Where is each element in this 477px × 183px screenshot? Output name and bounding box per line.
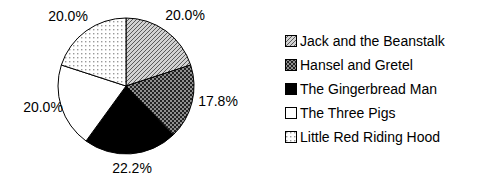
legend-label: The Three Pigs	[300, 105, 395, 121]
crosshatch-swatch-icon	[285, 59, 297, 71]
legend-item-jack-and-the-beanstalk: Jack and the Beanstalk	[285, 29, 445, 53]
slice-label-hansel-and-gretel: 17.8%	[198, 93, 238, 109]
pie-chart-figure: 20.0% 17.8% 22.2% 20.0% 20.0% Jack and t…	[0, 0, 477, 183]
legend-item-the-three-pigs: The Three Pigs	[285, 101, 445, 125]
dotted-swatch-icon	[285, 131, 297, 143]
legend-label: Hansel and Gretel	[300, 57, 413, 73]
pie-chart	[0, 0, 260, 183]
slice-label-the-gingerbread-man: 22.2%	[112, 160, 152, 176]
slice-label-jack-and-the-beanstalk: 20.0%	[165, 7, 205, 23]
solid-black-swatch-icon	[285, 83, 297, 95]
legend: Jack and the Beanstalk Hansel and Gretel…	[285, 29, 445, 149]
legend-item-the-gingerbread-man: The Gingerbread Man	[285, 77, 445, 101]
legend-item-little-red-riding-hood: Little Red Riding Hood	[285, 125, 445, 149]
slice-label-the-three-pigs: 20.0%	[23, 99, 63, 115]
pie-slices	[58, 18, 194, 154]
legend-label: The Gingerbread Man	[300, 81, 437, 97]
legend-item-hansel-and-gretel: Hansel and Gretel	[285, 53, 445, 77]
legend-label: Little Red Riding Hood	[300, 129, 440, 145]
legend-label: Jack and the Beanstalk	[300, 33, 445, 49]
white-swatch-icon	[285, 107, 297, 119]
slice-label-little-red-riding-hood: 20.0%	[48, 8, 88, 24]
diagonal-hatch-swatch-icon	[285, 35, 297, 47]
